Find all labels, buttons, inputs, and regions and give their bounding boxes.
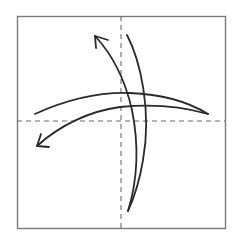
- origami-diagram: [0, 0, 243, 237]
- diagram-canvas: [0, 0, 243, 237]
